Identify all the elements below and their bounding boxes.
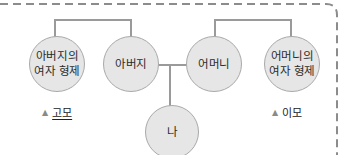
sibling-bracket-mother <box>215 20 291 37</box>
label-text: 고모 <box>52 104 72 120</box>
node-mother-sister: 어머니의 여자 형제 <box>264 36 320 92</box>
label-gomo: ▲ 고모 <box>42 104 72 120</box>
node-text: 어머니의 <box>269 49 315 64</box>
node-text: 여자 형제 <box>34 64 80 79</box>
node-text: 어머니 <box>198 57 230 72</box>
family-tree-diagram: 아버지의 여자 형제 아버지 어머니 어머니의 여자 형제 나 ▲ 고모 ▲ 이… <box>0 0 342 155</box>
node-text: 아버지 <box>115 57 147 72</box>
label-imo: ▲ 이모 <box>272 104 302 120</box>
node-text: 나 <box>167 125 178 140</box>
triangle-marker-icon: ▲ <box>272 108 278 117</box>
node-father: 아버지 <box>103 36 159 92</box>
node-text: 아버지의 <box>34 49 80 64</box>
node-me: 나 <box>145 105 199 155</box>
node-mother: 어머니 <box>186 36 242 92</box>
triangle-marker-icon: ▲ <box>42 108 48 117</box>
node-father-sister: 아버지의 여자 형제 <box>29 36 85 92</box>
label-text: 이모 <box>282 104 302 120</box>
node-text: 여자 형제 <box>269 64 315 79</box>
sibling-bracket-father <box>55 20 131 37</box>
